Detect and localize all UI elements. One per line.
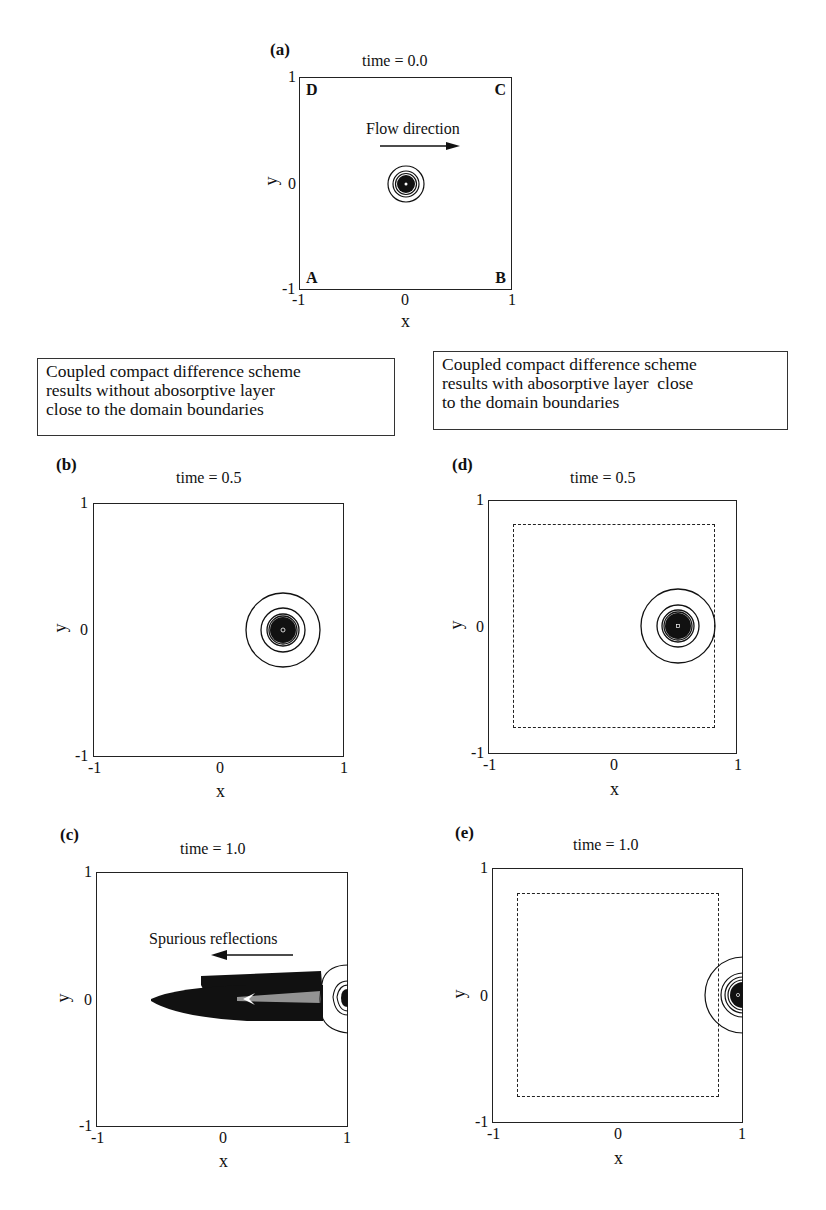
spurious-reflection-blobs — [151, 971, 323, 1021]
panel-d-plot-frame — [488, 500, 737, 754]
b-ylabel: y — [51, 624, 69, 633]
panel-e-contours — [493, 869, 744, 1124]
b-ytick-1: 1 — [80, 495, 88, 511]
a-xtick-1: 1 — [508, 292, 516, 308]
caption-left-line-3: close to the domain boundaries — [46, 400, 386, 419]
panel-a-title: time = 0.0 — [362, 52, 427, 70]
caption-left-line-1: Coupled compact difference scheme — [46, 362, 386, 381]
e-xtick-neg1: -1 — [487, 1126, 500, 1142]
panel-b-title: time = 0.5 — [176, 469, 241, 487]
e-xtick-0: 0 — [614, 1126, 622, 1142]
e-ytick-0: 0 — [480, 988, 488, 1004]
b-xtick-neg1: -1 — [88, 760, 101, 776]
d-xlabel: x — [610, 780, 619, 798]
panel-e-label: (e) — [455, 823, 474, 843]
panel-e-title: time = 1.0 — [573, 836, 638, 854]
panel-d-title: time = 0.5 — [570, 469, 635, 487]
caption-right-line-3: to the domain boundaries — [442, 393, 779, 412]
a-ylabel: y — [262, 177, 280, 186]
d-ytick-1: 1 — [476, 492, 484, 508]
e-ytick-1: 1 — [480, 860, 488, 876]
panel-d-label: (d) — [452, 455, 473, 475]
c-xtick-0: 0 — [219, 1130, 227, 1146]
panel-b-contours — [94, 504, 345, 758]
c-ylabel: y — [54, 994, 72, 1003]
panel-a-label: (a) — [270, 40, 290, 60]
b-xtick-1: 1 — [340, 760, 348, 776]
d-xtick-0: 0 — [610, 757, 618, 773]
c-xtick-1: 1 — [343, 1130, 351, 1146]
caption-with-layer: Coupled compact difference scheme result… — [433, 351, 788, 430]
e-xtick-1: 1 — [738, 1126, 746, 1142]
panel-b-plot-frame — [93, 503, 344, 757]
a-xtick-0: 0 — [401, 292, 409, 308]
panel-e-plot-frame — [492, 868, 743, 1123]
c-xtick-neg1: -1 — [91, 1130, 104, 1146]
b-xlabel: x — [216, 782, 225, 800]
panel-c-title: time = 1.0 — [180, 840, 245, 858]
panel-a-plot-frame: D C A B Flow direction — [299, 77, 512, 290]
caption-without-layer: Coupled compact difference scheme result… — [37, 358, 395, 436]
c-xlabel: x — [219, 1152, 228, 1170]
d-ylabel: y — [447, 621, 465, 630]
a-xtick-neg1: -1 — [292, 292, 305, 308]
caption-left-line-2: results without abosorptive layer — [46, 381, 386, 400]
caption-right-line-2: results with abosorptive layer close — [442, 374, 779, 393]
panel-d-contours — [489, 501, 738, 755]
b-ytick-neg1: -1 — [75, 748, 88, 764]
a-ytick-0: 0 — [288, 176, 296, 192]
e-ylabel: y — [450, 990, 468, 999]
caption-right-line-1: Coupled compact difference scheme — [442, 355, 779, 374]
a-xlabel: x — [401, 312, 410, 330]
flow-arrow-right-icon — [380, 142, 460, 150]
d-ytick-0: 0 — [476, 619, 484, 635]
e-xlabel: x — [614, 1149, 623, 1167]
panel-b-label: (b) — [56, 455, 77, 475]
c-ytick-0: 0 — [84, 992, 92, 1008]
panel-c-plot-frame: Spurious reflections — [96, 872, 348, 1127]
reflection-arrow-left-icon — [211, 950, 293, 960]
d-xtick-neg1: -1 — [483, 757, 496, 773]
b-xtick-0: 0 — [216, 760, 224, 776]
b-ytick-0: 0 — [80, 622, 88, 638]
panel-c-label: (c) — [60, 825, 79, 845]
panel-c-contours — [97, 873, 349, 1128]
c-ytick-1: 1 — [84, 864, 92, 880]
d-xtick-1: 1 — [734, 757, 742, 773]
a-ytick-1: 1 — [288, 69, 296, 85]
panel-a-contours — [300, 78, 513, 291]
